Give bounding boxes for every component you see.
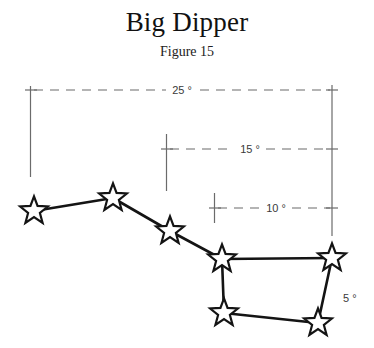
dimension-25-degrees: 25 ° — [25, 84, 338, 236]
star-icon-1 — [20, 196, 48, 223]
star-icon-2 — [99, 183, 127, 210]
star-icon-6 — [304, 308, 332, 335]
figure-container: Big Dipper Figure 15 25 ° 15 ° — [0, 0, 374, 348]
dimension-15-degrees: 15 ° — [161, 134, 338, 191]
dimension-5-degrees: 5 ° — [343, 292, 357, 304]
star-icon-3 — [156, 216, 184, 243]
dimension-15-label: 15 ° — [240, 143, 260, 155]
dimension-10-degrees: 10 ° — [209, 193, 338, 223]
star-icon-5 — [318, 243, 346, 270]
constellation-line-4-5 — [222, 258, 332, 259]
constellation-lines — [34, 198, 332, 323]
dimension-25-label: 25 ° — [172, 84, 192, 96]
big-dipper-diagram: 25 ° 15 ° 10 ° 5 ° — [0, 0, 374, 348]
dimension-5-label: 5 ° — [343, 292, 357, 304]
star-icon-7 — [210, 298, 238, 325]
dimension-10-label: 10 ° — [266, 202, 286, 214]
